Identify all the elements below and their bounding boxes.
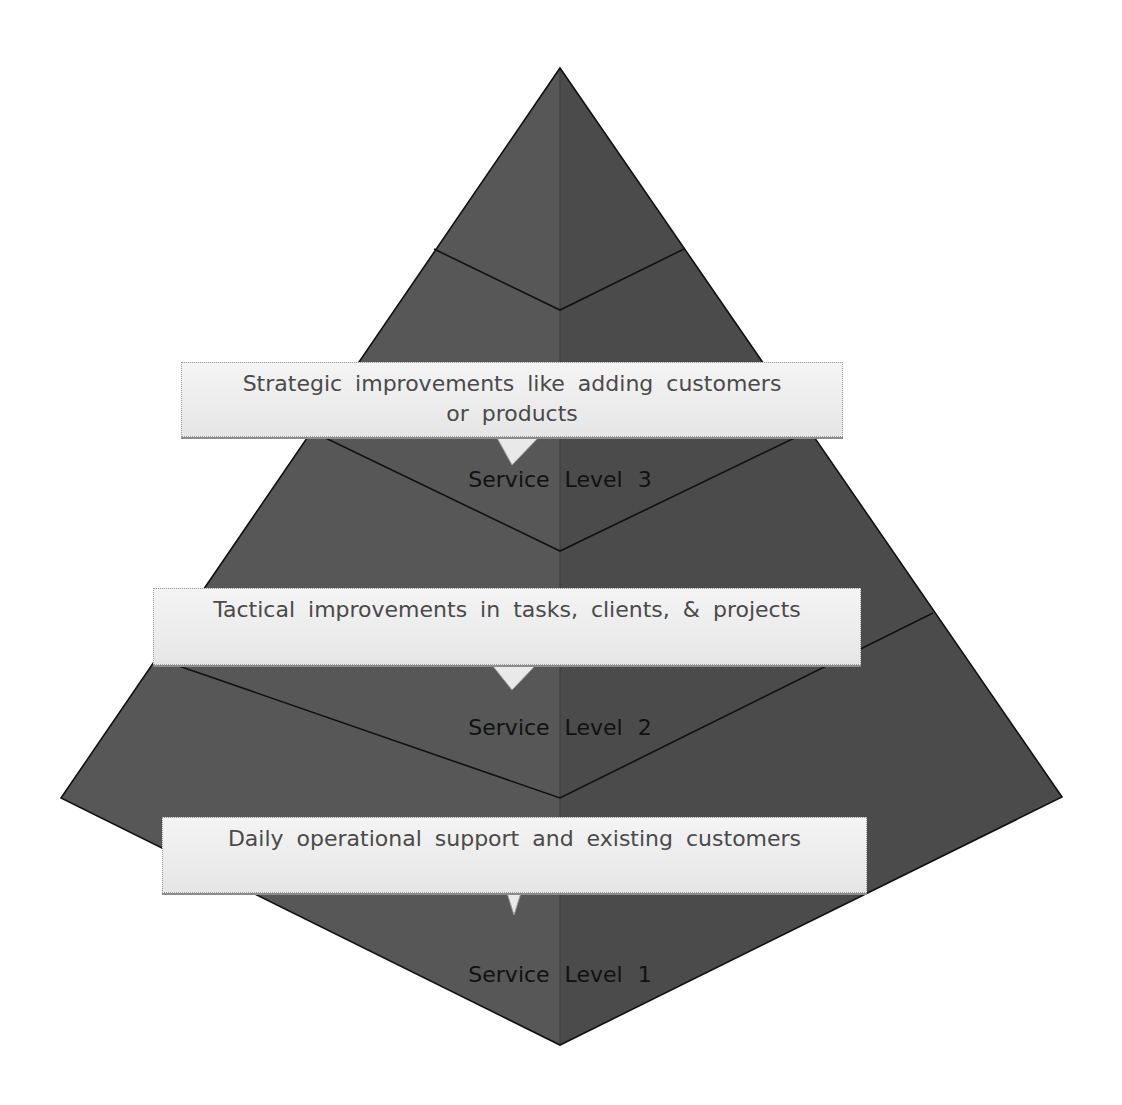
callout-level-3-text: Strategic improvements like adding custo… xyxy=(242,369,782,429)
pyramid-graphic xyxy=(0,0,1122,1105)
callout-level-3: Strategic improvements like adding custo… xyxy=(181,362,843,437)
level-label-2: Service Level 2 xyxy=(410,715,710,740)
pyramid-left-face xyxy=(61,68,560,1045)
level-label-1: Service Level 1 xyxy=(410,962,710,987)
callout-level-1-text: Daily operational support and existing c… xyxy=(218,824,811,854)
callout-level-2-text: Tactical improvements in tasks, clients,… xyxy=(194,595,820,625)
pyramid-right-face xyxy=(560,68,1062,1045)
service-level-pyramid-diagram: Strategic improvements like adding custo… xyxy=(0,0,1122,1105)
callout-level-1: Daily operational support and existing c… xyxy=(162,817,867,893)
level-label-3: Service Level 3 xyxy=(410,467,710,492)
callout-level-2: Tactical improvements in tasks, clients,… xyxy=(153,588,861,665)
